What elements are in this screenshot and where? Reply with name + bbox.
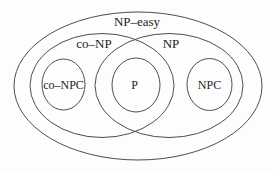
p-label: P bbox=[131, 78, 138, 92]
np-easy-label: NP–easy bbox=[114, 14, 161, 29]
co-np-label: co–NP bbox=[76, 36, 111, 51]
co-npc-label: co–NPC bbox=[43, 78, 84, 92]
npc-label: NPC bbox=[198, 78, 221, 92]
complexity-classes-euler-diagram: NP–easy co–NP NP co–NPC P NPC bbox=[0, 0, 273, 171]
venn-diagram: NP–easy co–NP NP co–NPC P NPC bbox=[0, 0, 273, 171]
np-label: NP bbox=[163, 36, 180, 51]
